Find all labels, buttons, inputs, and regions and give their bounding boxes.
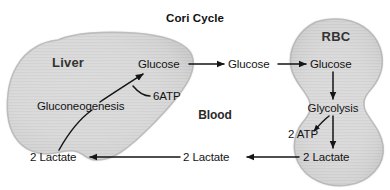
page-title: Cori Cycle [166, 12, 224, 24]
metabolite-lactate-blood: 2 Lactate [183, 151, 229, 163]
cori-cycle-diagram: Cori Cycle Liver Blood RBC Glucose Gluco… [0, 0, 390, 190]
energy-atp-consumed: 6ATP [153, 90, 181, 102]
metabolite-lactate-liver: 2 Lactate [30, 151, 76, 163]
process-glycolysis: Glycolysis [308, 102, 359, 114]
compartment-label-blood: Blood [198, 109, 232, 121]
metabolite-glucose-blood: Glucose [228, 58, 270, 70]
compartment-label-liver: Liver [52, 57, 84, 69]
metabolite-lactate-rbc: 2 Lactate [303, 151, 349, 163]
metabolite-glucose-liver: Glucose [138, 58, 180, 70]
compartment-label-rbc: RBC [322, 31, 351, 43]
process-gluconeogenesis: Gluconeogenesis [37, 100, 124, 112]
metabolite-glucose-rbc: Glucose [310, 58, 352, 70]
energy-atp-produced: 2 ATP [288, 128, 318, 140]
